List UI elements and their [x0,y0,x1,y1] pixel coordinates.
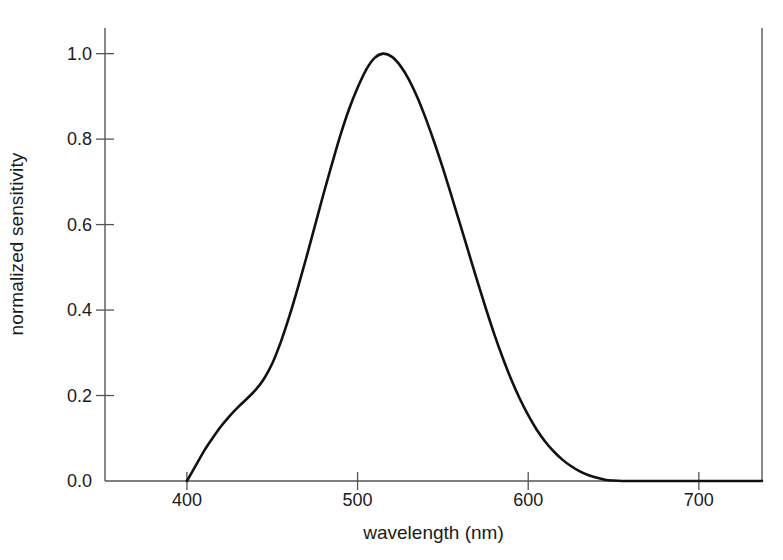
sensitivity-curve [187,54,762,481]
axis-spines [105,28,762,481]
figure-canvas: normalized sensitivity wavelength (nm) 0… [0,0,783,560]
axis-ticks [96,54,699,490]
plot-area [0,0,783,560]
